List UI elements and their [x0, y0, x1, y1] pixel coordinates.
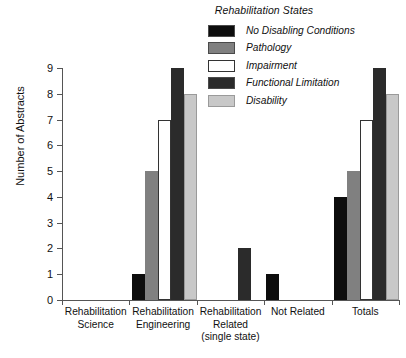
x-axis-category-line: Related [182, 319, 279, 332]
bar-cluster [132, 68, 197, 300]
bar-cluster [334, 68, 399, 300]
y-axis-tick-label: 3 [47, 217, 53, 228]
y-axis-tick-label: 6 [47, 140, 53, 151]
x-axis-tick [332, 300, 333, 305]
y-axis-tick-label: 7 [47, 114, 53, 125]
bar[interactable] [360, 120, 373, 300]
x-axis-tick [197, 300, 198, 305]
x-axis-category-label: Totals [317, 306, 406, 319]
y-axis-tick-label: 9 [47, 63, 53, 74]
bar-chart: Rehabilitation States No Disabling Condi… [0, 0, 406, 358]
bar-cluster [199, 68, 264, 300]
y-axis-tick-label: 4 [47, 191, 53, 202]
bar[interactable] [132, 274, 145, 300]
bar[interactable] [334, 197, 347, 300]
bar[interactable] [145, 171, 158, 300]
legend-swatch-icon [208, 42, 235, 54]
bar-group [129, 68, 196, 300]
bar[interactable] [184, 94, 197, 300]
legend-swatch-icon [208, 25, 235, 37]
bar-cluster [266, 68, 331, 300]
bar[interactable] [347, 171, 360, 300]
bar[interactable] [266, 274, 279, 300]
bar[interactable] [373, 68, 386, 300]
bar-group [197, 68, 264, 300]
legend-item-label: No Disabling Conditions [246, 26, 355, 36]
bar[interactable] [386, 94, 399, 300]
x-axis-tick [399, 300, 400, 305]
y-axis-tick-label: 8 [47, 88, 53, 99]
x-axis-tick [129, 300, 130, 305]
y-axis-title: Number of Abstracts [14, 71, 26, 201]
bar[interactable] [171, 68, 184, 300]
legend-item[interactable]: Pathology [208, 40, 406, 58]
y-axis-tick-label: 0 [47, 295, 53, 306]
bar-group [264, 68, 331, 300]
plot-area: 0123456789 RehabilitationScienceRehabili… [62, 68, 399, 300]
x-axis-tick [62, 300, 63, 305]
x-axis-tick [264, 300, 265, 305]
legend-item-label: Pathology [246, 43, 291, 53]
bar-group [332, 68, 399, 300]
y-axis-tick-label: 2 [47, 243, 53, 254]
legend-title: Rehabilitation States [152, 4, 376, 16]
x-axis-category-line: Totals [317, 306, 406, 319]
x-axis-line [62, 300, 399, 301]
bar-group [62, 68, 129, 300]
y-axis-tick-label: 1 [47, 269, 53, 280]
y-axis-tick-label: 5 [47, 166, 53, 177]
x-axis-category-line: (single state) [182, 331, 279, 344]
legend-item[interactable]: No Disabling Conditions [208, 22, 406, 40]
bar-cluster [64, 68, 129, 300]
bar[interactable] [158, 120, 171, 300]
bar[interactable] [238, 248, 251, 300]
